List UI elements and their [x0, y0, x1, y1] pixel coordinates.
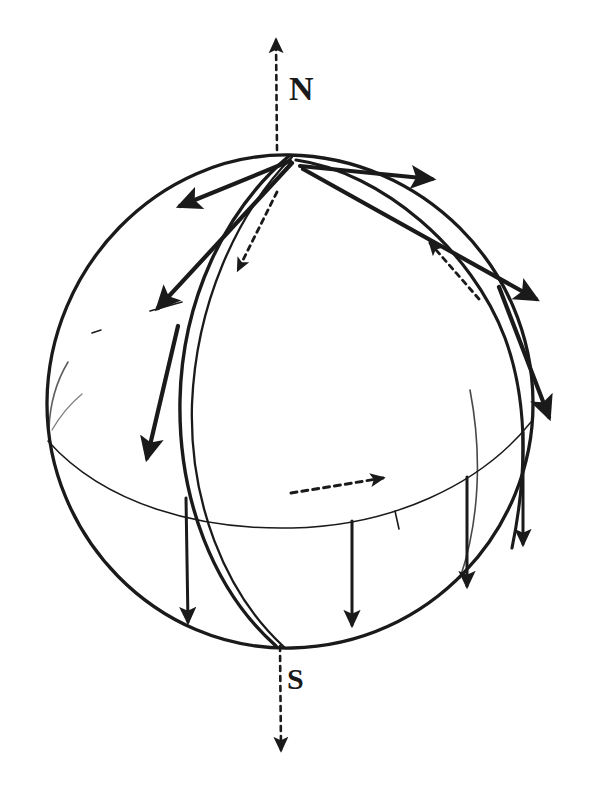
globe-outline — [47, 155, 533, 648]
globe-outline-group — [47, 155, 533, 648]
meridian-right — [296, 160, 523, 548]
north-pole-label: N — [289, 72, 314, 106]
meridian-front-secondary — [192, 157, 292, 647]
equator-group — [48, 394, 531, 528]
arrow-ne-lower — [303, 169, 536, 299]
arrow-equatorial-dashed — [291, 478, 383, 493]
meridian-left-detail — [49, 362, 68, 428]
equator-back-hint — [52, 394, 82, 430]
tick-equator-east — [395, 511, 399, 529]
solid-vector-arrows — [147, 161, 549, 625]
south-pole-label: S — [287, 664, 304, 694]
arrow-west-mid — [147, 326, 178, 458]
meridian-group — [49, 156, 523, 647]
meridian-front-central — [180, 156, 289, 646]
figure-root: N S — [0, 0, 599, 791]
tick-left-speck — [92, 330, 101, 333]
arrow-east-mid — [499, 287, 549, 417]
tick-west — [150, 302, 182, 311]
rotation-axis-bottom-line — [280, 646, 281, 750]
arrow-nw-lower — [158, 163, 292, 308]
meridian-right-inner — [460, 390, 477, 578]
tick-mark-group — [92, 302, 399, 529]
rotation-axis-top-line — [276, 40, 277, 150]
equator-front-arc — [48, 422, 531, 528]
arrow-south-west-vertical — [186, 498, 188, 622]
dashed-vector-arrows — [238, 192, 479, 493]
